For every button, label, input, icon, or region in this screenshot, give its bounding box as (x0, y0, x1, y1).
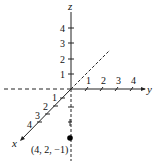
y-tick-label-1: 1 (86, 75, 91, 86)
y-axis-arrow-icon (141, 87, 146, 91)
x-axis-label: x (11, 137, 17, 149)
z-tick-label-4: 4 (60, 23, 65, 34)
y-tick-label-4: 4 (131, 75, 136, 86)
z-tick-label-2: 2 (60, 54, 65, 65)
y-tick-label-3: 3 (116, 75, 121, 86)
z-tick-label-1: 1 (60, 69, 65, 80)
y-axis-label: y (146, 83, 152, 95)
point-label: (4, 2, −1) (31, 144, 68, 156)
3d-axes-diagram: z y x 1 2 3 4 1 2 3 4 1 2 3 4 (4, 2, −1) (0, 0, 154, 161)
z-tick-label-3: 3 (60, 38, 65, 49)
point-marker (67, 135, 73, 141)
x-tick-label-1: 1 (52, 92, 57, 103)
x-tick-label-2: 2 (43, 101, 48, 112)
z-axis-label: z (67, 0, 73, 12)
x-tick-label-4: 4 (27, 119, 32, 130)
y-tick-label-2: 2 (101, 75, 106, 86)
x-tick-label-3: 3 (35, 110, 40, 121)
